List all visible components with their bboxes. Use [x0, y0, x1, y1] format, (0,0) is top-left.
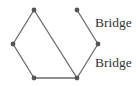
- edge-a-d: [34, 10, 77, 78]
- bridge-label-top: Bridge: [95, 15, 132, 30]
- bridge-label-bottom: Bridge: [95, 55, 132, 70]
- edge-b-c: [13, 44, 34, 78]
- node-a: [32, 8, 37, 13]
- edge-a-b: [13, 10, 34, 44]
- graph-diagram: Bridge Bridge: [0, 0, 136, 86]
- node-d: [75, 76, 80, 81]
- node-e: [96, 42, 101, 47]
- node-b: [11, 42, 16, 47]
- node-c: [32, 76, 37, 81]
- node-f: [75, 8, 80, 13]
